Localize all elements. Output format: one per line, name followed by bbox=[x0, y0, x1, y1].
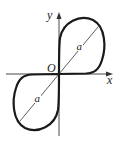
origin-label: O bbox=[47, 61, 56, 75]
lower-diameter-label: a bbox=[35, 92, 41, 104]
x-axis-label: x bbox=[106, 73, 113, 87]
y-axis-arrow-icon bbox=[57, 12, 62, 19]
y-axis-label: y bbox=[46, 8, 53, 22]
upper-diameter-label: a bbox=[77, 40, 83, 52]
curve-diagram: y x O a a bbox=[0, 0, 121, 141]
